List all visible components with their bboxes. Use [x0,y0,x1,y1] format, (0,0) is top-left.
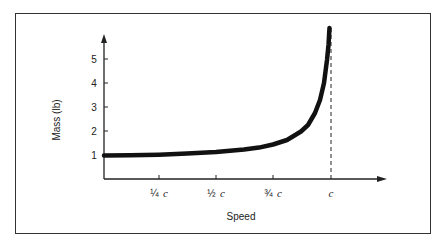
y-tick-label: 5 [91,54,97,65]
y-axis-label: Mass (lb) [51,99,62,140]
chart: 1 2 3 4 5 ¼ c ½ c ¾ c c Mass (lb) Speed [0,0,445,247]
y-ticks: 1 2 3 4 5 [91,54,108,161]
x-tick-label: ¼ c [150,183,168,200]
x-axis-arrow-icon [377,176,387,182]
y-tick-label: 3 [91,102,97,113]
y-tick-label: 1 [91,150,97,161]
mass-speed-curve [104,28,330,156]
x-tick-label: ¾ c [264,183,282,200]
x-tick-label: ½ c [207,183,225,200]
y-axis-arrow-icon [101,34,107,43]
x-axis-label: Speed [227,211,256,222]
y-tick-label: 4 [91,78,97,89]
y-tick-label: 2 [91,126,97,137]
x-tick-label: c [329,187,334,199]
